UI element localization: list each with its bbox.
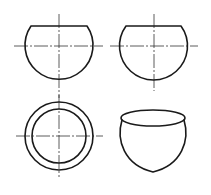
drawing-canvas: [0, 0, 211, 195]
side-view-outline: [119, 26, 187, 80]
isometric-body-outline: [120, 120, 186, 172]
top-view: [16, 95, 103, 177]
isometric-view: [120, 110, 186, 172]
isometric-top-ellipse: [121, 110, 185, 126]
front-view: [14, 14, 103, 98]
side-view: [110, 14, 198, 91]
